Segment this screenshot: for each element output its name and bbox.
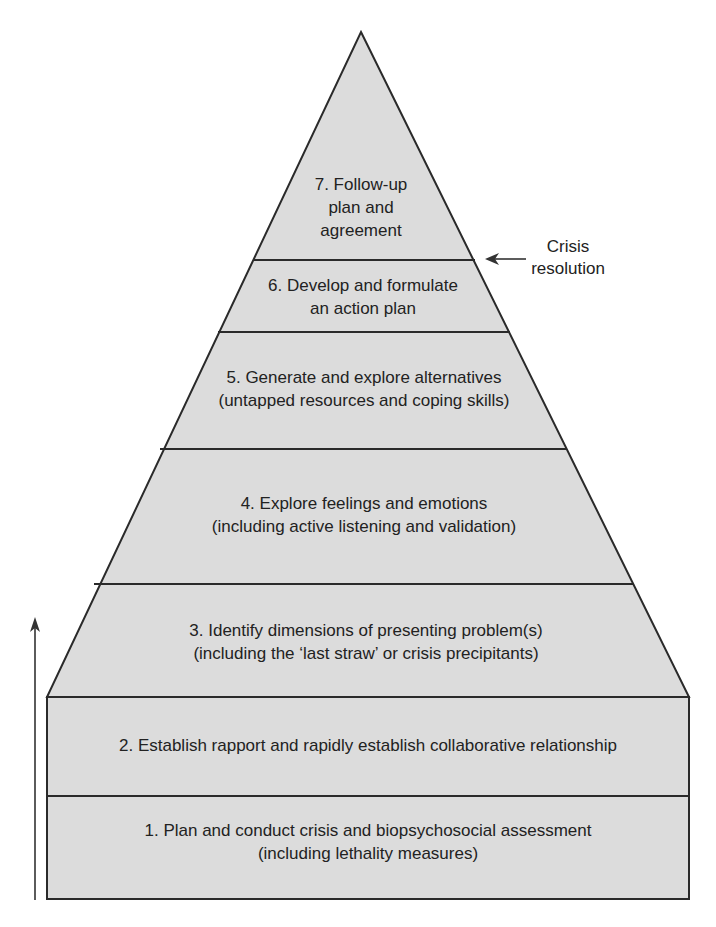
level-4-line-2: (including active listening and validati… [212,515,516,538]
pyramid-diagram [0,0,716,927]
level-6-line-1: 6. Develop and formulate [268,274,458,297]
annotation-line-2: resolution [508,258,628,280]
level-1-label: 1. Plan and conduct crisis and biopsycho… [145,819,592,865]
annotation-line-1: Crisis [508,236,628,258]
level-3-label: 3. Identify dimensions of presenting pro… [189,619,542,665]
level-7-line-1: 7. Follow-up [315,173,408,196]
level-5-line-2: (untapped resources and coping skills) [218,389,509,412]
pyramid-upper-shape [47,32,689,697]
level-7-label: 7. Follow-up plan and agreement [315,173,408,242]
crisis-resolution-annotation: Crisis resolution [508,236,628,280]
level-4-line-1: 4. Explore feelings and emotions [212,492,516,515]
level-7-line-3: agreement [315,219,408,242]
level-6-label: 6. Develop and formulate an action plan [268,274,458,320]
progress-up-arrow-icon [30,617,40,900]
level-2-line-1: 2. Establish rapport and rapidly establi… [119,734,617,757]
level-5-line-1: 5. Generate and explore alternatives [218,366,509,389]
level-1-line-2: (including lethality measures) [145,842,592,865]
level-3-line-2: (including the ‘last straw’ or crisis pr… [189,642,542,665]
level-4-label: 4. Explore feelings and emotions (includ… [212,492,516,538]
level-1-line-1: 1. Plan and conduct crisis and biopsycho… [145,819,592,842]
level-2-label: 2. Establish rapport and rapidly establi… [119,734,617,757]
level-3-line-1: 3. Identify dimensions of presenting pro… [189,619,542,642]
level-6-line-2: an action plan [268,297,458,320]
level-7-line-2: plan and [315,196,408,219]
pyramid-base-shape [47,697,689,899]
level-5-label: 5. Generate and explore alternatives (un… [218,366,509,412]
